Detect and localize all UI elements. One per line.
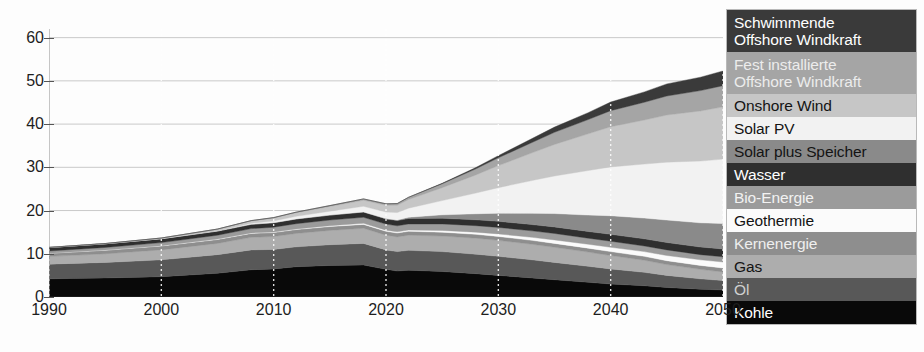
x-tick-label: 2000 (144, 302, 180, 318)
x-tick-label: 2030 (481, 302, 517, 318)
legend-item-label: Wasser (734, 166, 785, 183)
y-tick-label: 20 (10, 203, 44, 219)
plot-area (49, 29, 723, 297)
y-tick-label: 30 (10, 159, 44, 175)
legend-item-label: Schwimmende Offshore Windkraft (734, 14, 861, 49)
legend-item-label: Bio-Energie (734, 189, 814, 206)
legend-item[interactable]: Fest installierte Offshore Windkraft (727, 52, 916, 94)
legend-item-label: Öl (734, 281, 749, 298)
legend-item[interactable]: Kohle (727, 301, 916, 324)
legend-item[interactable]: Kernenergie (727, 232, 916, 255)
y-tick-mark (44, 297, 54, 298)
legend-item-label: Solar plus Speicher (734, 143, 867, 160)
legend-item-label: Kernenergie (734, 235, 817, 252)
y-tick-label: 40 (10, 116, 44, 132)
chart-legend: Schwimmende Offshore WindkraftFest insta… (726, 9, 917, 325)
legend-item[interactable]: Öl (727, 278, 916, 301)
legend-item[interactable]: Solar PV (727, 117, 916, 140)
legend-item[interactable]: Geothermie (727, 209, 916, 232)
legend-item-label: Gas (734, 258, 762, 275)
legend-item[interactable]: Bio-Energie (727, 186, 916, 209)
chart-root: 0102030405060 Schwimmende Offshore Windk… (0, 0, 924, 352)
y-tick-mark (44, 124, 54, 125)
y-tick-mark (44, 254, 54, 255)
y-tick-mark (44, 167, 54, 168)
legend-item[interactable]: Wasser (727, 163, 916, 186)
x-tick-label: 1990 (31, 302, 67, 318)
legend-item-label: Solar PV (734, 120, 794, 137)
y-tick-mark (44, 81, 54, 82)
y-axis: 0102030405060 (0, 0, 44, 352)
legend-item-label: Fest installierte Offshore Windkraft (734, 56, 861, 91)
legend-item[interactable]: Solar plus Speicher (727, 140, 916, 163)
x-tick-label: 2040 (593, 302, 629, 318)
y-tick-label: 50 (10, 73, 44, 89)
y-tick-mark (44, 38, 54, 39)
stacked-area-svg (49, 29, 723, 297)
y-tick-label: 60 (10, 30, 44, 46)
x-tick-label: 2020 (368, 302, 404, 318)
x-tick-label: 2050 (705, 302, 741, 318)
legend-item-label: Geothermie (734, 212, 814, 229)
legend-item[interactable]: Schwimmende Offshore Windkraft (727, 10, 916, 52)
x-tick-label: 2010 (256, 302, 292, 318)
legend-item[interactable]: Gas (727, 255, 916, 278)
y-tick-mark (44, 211, 54, 212)
y-tick-label: 10 (10, 246, 44, 262)
legend-item[interactable]: Onshore Wind (727, 94, 916, 117)
legend-item-label: Onshore Wind (734, 97, 832, 114)
